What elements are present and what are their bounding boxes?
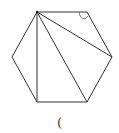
diagonal-to-right-vertex <box>37 12 112 57</box>
answer-parenthesis: ( <box>57 116 62 129</box>
hexagon-diagram <box>0 0 119 133</box>
angle-arc-marker <box>79 12 88 19</box>
vertex-dot <box>36 11 38 13</box>
diagonal-to-bottom-right-vertex <box>37 12 87 102</box>
